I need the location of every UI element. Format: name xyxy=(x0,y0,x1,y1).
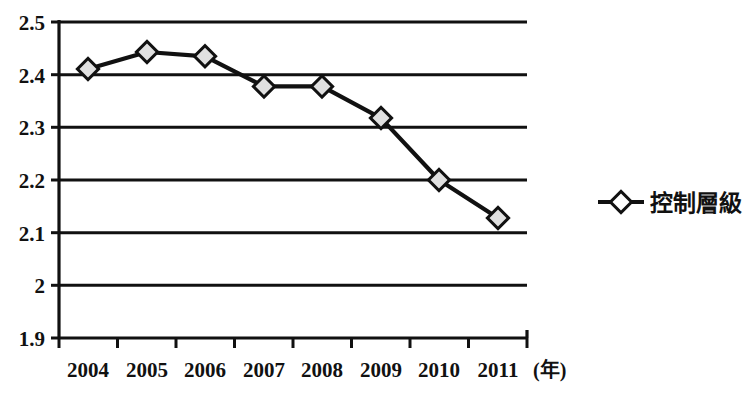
legend: 控制層級 xyxy=(598,190,742,216)
y-axis-label-2: 2.3 xyxy=(19,116,45,140)
y-axis-label-6: 1.9 xyxy=(19,327,45,351)
data-point-2006 xyxy=(194,46,215,67)
x-axis-label-2008: 2008 xyxy=(301,358,343,382)
data-point-2011 xyxy=(487,207,508,228)
y-axis-label-4: 2.1 xyxy=(19,222,45,246)
data-point-2005 xyxy=(136,41,157,62)
x-axis-label-2007: 2007 xyxy=(243,358,285,382)
data-point-2004 xyxy=(77,58,98,79)
y-axis-labels: 2.5 2.4 2.3 2.2 2.1 2 1.9 xyxy=(19,11,46,351)
data-line-series-0 xyxy=(88,52,498,218)
y-axis-label-0: 2.5 xyxy=(19,11,45,35)
x-axis-label-2004: 2004 xyxy=(67,358,110,382)
line-chart: 2.5 2.4 2.3 2.2 2.1 2 1.9 2004 2005 2006… xyxy=(0,0,753,403)
data-point-2007 xyxy=(253,76,274,97)
y-axis-label-1: 2.4 xyxy=(19,64,46,88)
gridlines xyxy=(59,22,527,285)
data-point-2008 xyxy=(311,76,332,97)
x-axis-label-2005: 2005 xyxy=(126,358,168,382)
legend-diamond-icon xyxy=(610,191,631,212)
x-axis-label-2011: 2011 xyxy=(478,358,519,382)
x-axis-label-2009: 2009 xyxy=(360,358,402,382)
data-markers xyxy=(77,41,508,228)
y-axis-label-3: 2.2 xyxy=(19,169,45,193)
x-axis-label-2010: 2010 xyxy=(418,358,460,382)
x-axis-labels: 2004 2005 2006 2007 2008 2009 2010 2011 … xyxy=(67,358,566,382)
x-axis-title: (年) xyxy=(533,358,566,382)
legend-item-label: 控制層級 xyxy=(650,190,742,216)
chart-canvas: 2.5 2.4 2.3 2.2 2.1 2 1.9 2004 2005 2006… xyxy=(0,0,753,403)
x-axis-label-2006: 2006 xyxy=(184,358,226,382)
y-axis-label-5: 2 xyxy=(35,274,46,298)
